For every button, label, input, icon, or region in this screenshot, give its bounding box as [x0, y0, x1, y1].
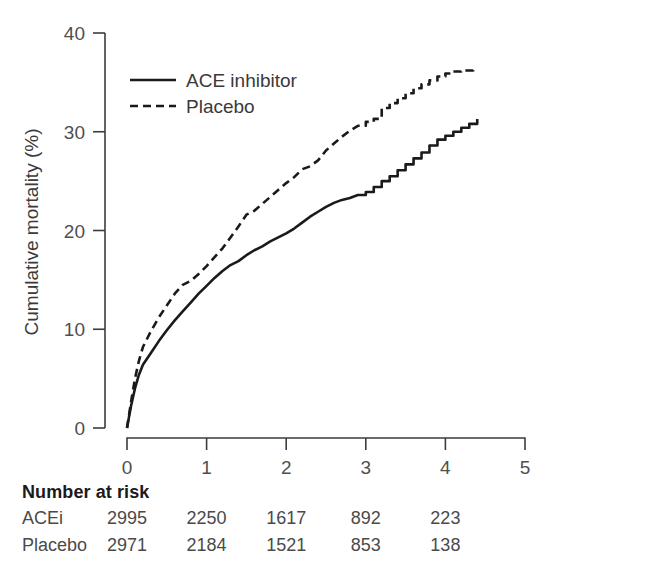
risk-value: 853 [326, 535, 406, 556]
number-at-risk-title: Number at risk [22, 482, 149, 503]
risk-value: 1617 [246, 508, 326, 529]
table-row: ACEi 299522501617892223 [0, 508, 649, 535]
risk-value: 2971 [87, 535, 167, 556]
x-axis-ticks: 012345 [122, 438, 531, 478]
legend: ACE inhibitor Placebo [130, 70, 298, 117]
y-tick-label: 10 [64, 319, 85, 340]
risk-row-label: ACEi [22, 508, 63, 529]
x-tick-label: 2 [281, 457, 292, 478]
figure-page: 010203040 012345 Cumulative mortality (%… [0, 0, 649, 586]
series-line-ace-inhibitor [127, 119, 477, 428]
x-axis-line [127, 438, 525, 450]
x-tick-label: 4 [440, 457, 451, 478]
legend-label-ace-inhibitor: ACE inhibitor [186, 70, 298, 91]
x-tick-label: 1 [201, 457, 212, 478]
risk-value: 138 [405, 535, 485, 556]
y-axis-ticks: 010203040 [64, 23, 105, 439]
legend-label-placebo: Placebo [186, 96, 255, 117]
risk-value: 2250 [167, 508, 247, 529]
risk-row-label: Placebo [22, 535, 87, 556]
y-tick-label: 30 [64, 122, 85, 143]
x-tick-label: 5 [520, 457, 531, 478]
risk-value: 2184 [167, 535, 247, 556]
series-line-placebo [127, 68, 473, 428]
y-tick-label: 20 [64, 221, 85, 242]
risk-value: 892 [326, 508, 406, 529]
x-tick-label: 0 [122, 457, 133, 478]
x-tick-label: 3 [361, 457, 372, 478]
risk-value: 223 [405, 508, 485, 529]
y-axis-title: Cumulative mortality (%) [21, 129, 42, 336]
y-tick-label: 40 [64, 23, 85, 44]
table-row: Placebo 297121841521853138 [0, 535, 649, 562]
risk-value: 2995 [87, 508, 167, 529]
y-tick-label: 0 [74, 418, 85, 439]
risk-value: 1521 [246, 535, 326, 556]
